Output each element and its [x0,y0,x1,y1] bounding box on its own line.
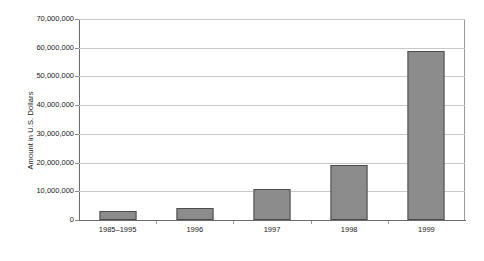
y-axis-tick-label: 50,000,000 [26,73,74,81]
bars-group [79,19,465,220]
y-axis-tick-label: 30,000,000 [26,130,74,138]
x-axis-tick-label: 1996 [156,226,233,240]
bar-slot [156,19,233,220]
bar [254,189,291,220]
y-axis-tick-mark [75,163,79,164]
bar-slot [388,19,465,220]
y-axis-tick-labels: 010,000,00020,000,00030,000,00040,000,00… [26,19,74,220]
x-axis-tick-label: 1997 [233,226,310,240]
bar [99,211,136,220]
y-axis-tick-mark [75,220,79,221]
x-axis-tick-mark [156,221,157,224]
bar-slot [233,19,310,220]
y-axis-tick-mark [75,76,79,77]
bar [331,165,368,220]
x-axis-tick-mark [233,221,234,224]
y-axis-tick-label: 10,000,000 [26,188,74,196]
y-axis-tick-label: 70,000,000 [26,15,74,23]
x-axis-tick-label: 1985–1995 [79,226,156,240]
x-axis-tick-labels: 1985–19951996199719981999 [79,226,465,240]
y-axis-tick-mark [75,48,79,49]
bar-chart: Amount in U.S. Dollars 010,000,00020,000… [0,0,484,261]
x-axis-line [79,220,466,221]
y-axis-tick-mark [75,105,79,106]
x-axis-tick-label: 1998 [311,226,388,240]
y-axis-tick-mark [75,191,79,192]
x-axis-tick-mark [388,221,389,224]
plot-area [79,19,465,220]
x-axis-tick-mark [311,221,312,224]
y-axis-tick-mark [75,19,79,20]
bar [176,208,213,220]
y-axis-tick-label: 40,000,000 [26,101,74,109]
y-axis-tick-label: 20,000,000 [26,159,74,167]
bar [408,51,445,220]
y-axis-tick-mark [75,134,79,135]
bar-slot [311,19,388,220]
y-axis-tick-label: 0 [26,216,74,224]
y-axis-tick-label: 60,000,000 [26,44,74,52]
x-axis-tick-label: 1999 [388,226,465,240]
bar-slot [79,19,156,220]
